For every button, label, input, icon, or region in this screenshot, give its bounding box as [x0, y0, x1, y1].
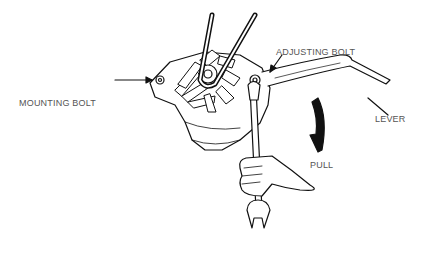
label-mounting-bolt: MOUNTING BOLT [19, 98, 96, 108]
label-pull: PULL [310, 160, 333, 170]
label-lever: LEVER [375, 114, 406, 124]
label-adjusting-bolt: ADJUSTING BOLT [276, 47, 355, 57]
pull-arrow-icon [310, 98, 324, 152]
alternator-illustration [0, 0, 429, 254]
hand [240, 156, 315, 196]
lever [262, 55, 390, 86]
